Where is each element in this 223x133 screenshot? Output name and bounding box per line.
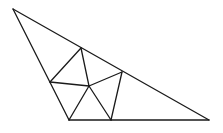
triangle-dissection-diagram xyxy=(0,0,223,133)
edge-QO xyxy=(81,48,89,86)
edge-RS xyxy=(111,72,122,120)
edge-PO xyxy=(50,82,89,86)
edge-AB xyxy=(13,9,69,120)
edge-OR xyxy=(89,72,122,86)
edge-CA xyxy=(13,9,209,120)
edge-OS xyxy=(89,86,111,120)
edge-PQ xyxy=(50,48,81,82)
diagram-edges xyxy=(13,9,209,120)
edge-OB xyxy=(69,86,89,120)
